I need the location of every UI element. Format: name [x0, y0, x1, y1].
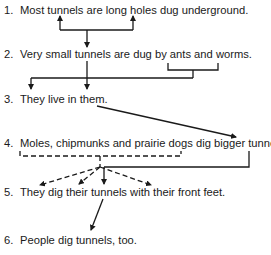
bracket-sentence-2 — [31, 61, 218, 89]
sentence-number: 6. — [4, 234, 20, 247]
sentence-number: 5. — [4, 186, 20, 199]
arrow-5-to-6 — [91, 199, 103, 230]
sentence-text: Very small tunnels are dug by ants and w… — [20, 48, 252, 60]
sentence-text: They live in them. — [20, 93, 108, 105]
sentence-number: 1. — [4, 4, 20, 17]
sentence-text: Moles, chipmunks and prairie dogs dig bi… — [20, 137, 271, 149]
sentence-6: 6.People dig tunnels, too. — [4, 234, 137, 247]
sentence-1: 1.Most tunnels are long holes dug underg… — [4, 4, 248, 17]
sentence-number: 2. — [4, 48, 20, 61]
sentence-text: They dig their tunnels with their front … — [20, 186, 225, 198]
dashed-bracket-sentence-4 — [20, 151, 181, 185]
bracket-sentence-1 — [60, 16, 133, 47]
sentence-5: 5.They dig their tunnels with their fron… — [4, 186, 225, 199]
connector-diagram — [0, 0, 271, 255]
arrow-3-to-4 — [97, 106, 236, 137]
sentence-3: 3.They live in them. — [4, 93, 108, 106]
sentence-number: 4. — [4, 137, 20, 150]
sentence-text: Most tunnels are long holes dug undergro… — [20, 4, 248, 16]
sentence-4: 4.Moles, chipmunks and prairie dogs dig … — [4, 137, 271, 150]
sentence-2: 2.Very small tunnels are dug by ants and… — [4, 48, 252, 61]
sentence-text: People dig tunnels, too. — [20, 234, 137, 246]
sentence-number: 3. — [4, 93, 20, 106]
